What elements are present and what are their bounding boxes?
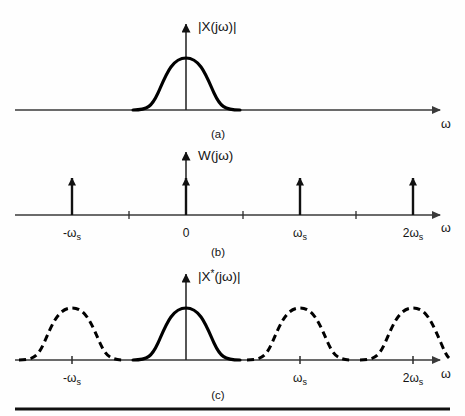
panel-c-label-two-omega-s: 2ωs (403, 371, 424, 387)
panel-c-replica-minus-omega-s (19, 308, 125, 360)
panel-b-label-omega-s: ωs (293, 226, 307, 242)
sampling-frequency-domain-figure: |X(jω)| ω (a) W(jω) ω -ωs 0 ωs 2ωs (b) |… (0, 0, 465, 416)
panel-c (15, 274, 449, 364)
panel-b-x-axis-label: ω (441, 221, 451, 235)
panel-a-caption: (a) (211, 128, 225, 140)
panel-b-label-two-omega-s: 2ωs (403, 226, 424, 242)
panel-c-replica-omega-s (247, 308, 353, 360)
panel-c-label-minus-omega-s: -ωs (63, 371, 81, 387)
panel-c-y-axis-label: |X*(jω)| (198, 268, 240, 284)
figure-canvas: |X(jω)| ω (a) W(jω) ω -ωs 0 ωs 2ωs (b) |… (0, 0, 465, 416)
panel-a-y-axis-label: |X(jω)| (198, 19, 237, 34)
panel-b-y-axis-label: W(jω) (198, 148, 233, 163)
panel-c-x-axis-label: ω (441, 367, 451, 381)
panel-b-caption: (b) (211, 246, 225, 258)
panel-b-label-zero: 0 (183, 226, 190, 240)
panel-c-replica-two-omega-s (360, 308, 449, 360)
panel-c-caption: (c) (211, 389, 225, 401)
panel-b-label-minus-omega-s: -ωs (63, 226, 81, 242)
panel-c-label-omega-s: ωs (293, 371, 307, 387)
panel-a-x-axis-label: ω (441, 117, 451, 131)
panel-a (15, 24, 440, 110)
